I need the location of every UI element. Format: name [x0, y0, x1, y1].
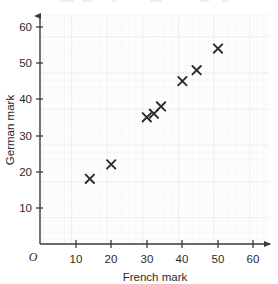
x-tick-label-50: 50 — [212, 253, 225, 265]
y-tick-label-20: 20 — [19, 166, 32, 178]
chart-canvas: 10 20 30 40 50 60 10 20 30 40 50 60 O Fr… — [0, 0, 278, 284]
y-tick-label-50: 50 — [19, 57, 32, 69]
y-tick-label-30: 30 — [19, 130, 32, 142]
x-tick-label-20: 20 — [105, 253, 118, 265]
y-tick-label-60: 60 — [19, 21, 32, 33]
y-tick-label-40: 40 — [19, 93, 32, 105]
major-gridlines — [40, 14, 269, 244]
x-tick-label-60: 60 — [247, 253, 260, 265]
x-tick-label-10: 10 — [70, 253, 83, 265]
x-tick-label-40: 40 — [176, 253, 189, 265]
y-axis-tick-labels: 10 20 30 40 50 60 — [19, 21, 32, 214]
x-axis-title: French mark — [123, 271, 188, 283]
clipped-title-fragment — [60, 0, 228, 2]
y-axis-title: German mark — [4, 95, 16, 166]
x-tick-label-30: 30 — [141, 253, 154, 265]
x-axis-tick-labels: 10 20 30 40 50 60 — [70, 253, 260, 265]
origin-label: O — [29, 250, 38, 264]
scatter-plot-figure: 10 20 30 40 50 60 10 20 30 40 50 60 O Fr… — [0, 0, 278, 284]
y-tick-label-10: 10 — [19, 202, 32, 214]
